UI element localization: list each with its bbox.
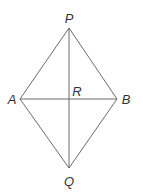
edge-bq [69,99,117,168]
intersection-label-r: R [72,84,81,99]
rhombus-diagram: P A B Q R [0,0,143,196]
edge-aq [20,99,69,168]
vertex-label-a: A [7,92,17,107]
vertex-label-p: P [65,11,74,26]
vertex-label-q: Q [64,174,74,189]
edge-pa [20,28,69,99]
vertex-label-b: B [122,92,131,107]
